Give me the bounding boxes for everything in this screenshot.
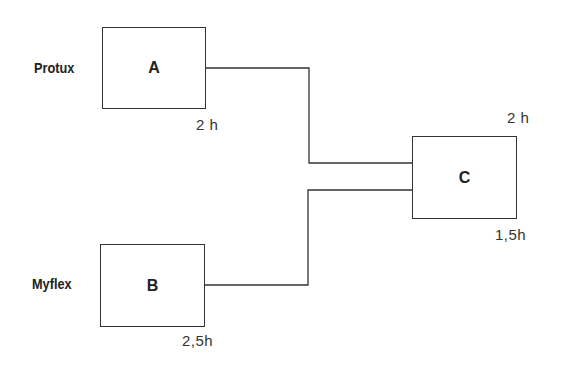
node-b-label: B [147,277,159,295]
node-c-label: C [459,169,471,187]
node-a-name: Protux [34,59,74,76]
node-a: A [102,27,206,109]
node-b-name: Myflex [32,275,72,292]
node-c-duration-bottom: 1,5h [495,226,526,243]
node-b: B [100,244,205,327]
node-a-duration: 2 h [196,116,218,133]
node-a-label: A [148,59,160,77]
node-c-duration-top: 2 h [507,109,529,126]
node-c: C [412,136,517,219]
edge-b-to-c [204,190,412,285]
edge-a-to-c [205,68,412,163]
node-b-duration: 2,5h [182,332,213,349]
